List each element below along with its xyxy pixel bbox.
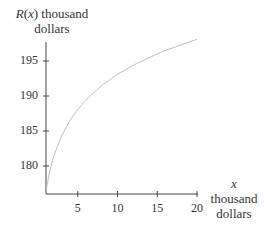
x-tick-label: 20: [185, 201, 209, 216]
y-tick-label: 185: [16, 123, 38, 138]
x-axis-label-line1: x: [205, 176, 263, 191]
x-tick-label: 10: [106, 201, 130, 216]
y-axis-label-line1: R(x) thousand: [10, 6, 94, 21]
r-curve: [46, 39, 197, 190]
x-axis-label: x thousand dollars: [205, 176, 263, 221]
y-tick-label: 190: [16, 88, 38, 103]
y-axis-label-line2: dollars: [10, 21, 94, 36]
x-axis-label-line2: thousand: [205, 191, 263, 206]
x-tick-label: 15: [145, 201, 169, 216]
x-tick-label: 5: [66, 201, 90, 216]
y-axis-label: R(x) thousand dollars: [10, 6, 94, 36]
y-tick-label: 180: [16, 158, 38, 173]
y-tick-label: 195: [16, 53, 38, 68]
x-axis-label-line3: dollars: [205, 206, 263, 221]
